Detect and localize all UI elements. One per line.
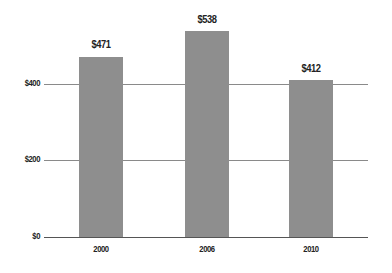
bar-2000 [79, 57, 123, 237]
value-label-2000: $471 [76, 38, 127, 50]
y-tick-label-200: $200 [8, 154, 40, 164]
bar-2006 [185, 31, 229, 237]
y-tick-label-0: $0 [8, 231, 40, 241]
x-label-2006: 2006 [182, 244, 233, 254]
x-label-2000: 2000 [76, 244, 127, 254]
y-tick-label-400: $400 [8, 78, 40, 88]
bar-chart: $400 $200 $0 $471 $538 $412 2000 2006 20… [0, 0, 392, 273]
value-label-2010: $412 [286, 62, 337, 74]
value-label-2006: $538 [182, 13, 233, 25]
x-label-2010: 2010 [286, 244, 337, 254]
bar-2010 [289, 80, 333, 237]
x-axis-baseline [44, 237, 368, 238]
